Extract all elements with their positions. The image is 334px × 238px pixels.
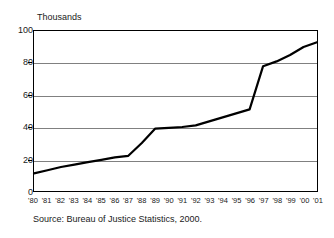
xtick-label-92: '92 [191,196,201,206]
x-axis: '80'81'82'83'84'85'86'87'88'89'90'91'92'… [33,196,318,208]
xtick-label-83: '83 [69,196,79,206]
ytick-mark-80 [28,62,32,63]
xtick-label-87: '87 [123,196,133,206]
xtick-label-94: '94 [218,196,228,206]
xtick-label-81: '81 [42,196,52,206]
xtick-label-82: '82 [55,196,65,206]
ytick-mark-40 [28,127,32,128]
xtick-label-01: '01 [313,196,323,206]
y-axis: 020406080100 [0,30,33,192]
xtick-label-88: '88 [137,196,147,206]
xtick-label-96: '96 [245,196,255,206]
y-axis-unit-label: Thousands [37,12,82,23]
ytick-mark-60 [28,95,32,96]
xtick-label-86: '86 [110,196,120,206]
xtick-label-80: '80 [28,196,38,206]
xtick-label-89: '89 [150,196,160,206]
xtick-label-99: '99 [286,196,296,206]
xtick-label-84: '84 [82,196,92,206]
xtick-label-97: '97 [259,196,269,206]
xtick-label-98: '98 [272,196,282,206]
xtick-label-93: '93 [205,196,215,206]
xtick-label-90: '90 [164,196,174,206]
chart-figure: Thousands 020406080100 '80'81'82'83'84'8… [0,0,334,238]
source-note: Source: Bureau of Justice Statistics, 20… [33,214,202,225]
data-line-series [34,31,317,191]
xtick-label-91: '91 [177,196,187,206]
plot-area [33,30,318,192]
ytick-label-100: 100 [7,26,33,35]
xtick-label-95: '95 [232,196,242,206]
xtick-label-85: '85 [96,196,106,206]
ytick-mark-20 [28,160,32,161]
xtick-label-00: '00 [300,196,310,206]
